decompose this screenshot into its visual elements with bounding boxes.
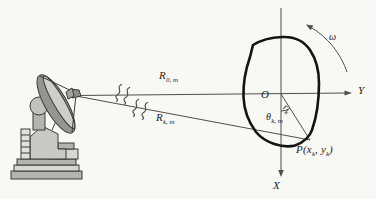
diagram-canvas	[0, 0, 376, 199]
radar-ladder	[21, 129, 30, 159]
label-range-rkm: Rk, m	[156, 112, 175, 126]
label-omega: ω	[329, 32, 336, 42]
isar-geometry-figure: R0, m Rk, m ω O Y X rk θk, m P(xk, yk)	[0, 0, 376, 199]
axis-x-arrowhead	[278, 170, 284, 177]
label-range-r0m: R0, m	[159, 70, 178, 84]
radar-antenna-icon	[11, 70, 82, 179]
label-theta-km: θk, m	[266, 112, 283, 125]
label-axis-x: X	[273, 180, 280, 191]
label-axis-y: Y	[358, 85, 364, 96]
radius-line-rk	[281, 94, 310, 140]
wave-squiggles-icon	[115, 84, 147, 120]
wave-squiggle	[141, 102, 147, 120]
label-point-p: P(xk, yk)	[296, 144, 333, 158]
wave-squiggle	[115, 84, 121, 102]
axis-y-arrowhead	[345, 90, 353, 95]
label-origin: O	[261, 89, 269, 100]
rotation-arrowhead	[306, 25, 313, 31]
radar-base	[11, 171, 82, 179]
wave-squiggle	[123, 87, 129, 105]
